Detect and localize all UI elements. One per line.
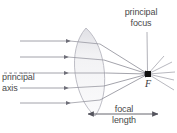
label-principal-axis-line1: principal [2, 72, 35, 82]
label-principal-focus-line2: focus [130, 18, 151, 28]
convex-lens [74, 28, 104, 116]
diverging-rays-past-focus [148, 56, 175, 90]
label-focal-length-line1: focal [115, 104, 134, 114]
focus-point-dot [145, 71, 151, 77]
label-focus-point-f: F [145, 78, 151, 89]
label-principal-axis: principal axis [2, 72, 54, 93]
figure-canvas: principal focus principal axis focal len… [0, 0, 177, 133]
refracted-rays [100, 44, 148, 100]
label-principal-focus: principal focus [112, 7, 170, 28]
label-principal-focus-line1: principal [125, 7, 158, 17]
label-focal-length-line2: length [112, 115, 136, 125]
label-focal-length: focal length [96, 104, 152, 125]
label-principal-axis-line2: axis [2, 83, 18, 93]
focus-leader-line [147, 32, 148, 72]
